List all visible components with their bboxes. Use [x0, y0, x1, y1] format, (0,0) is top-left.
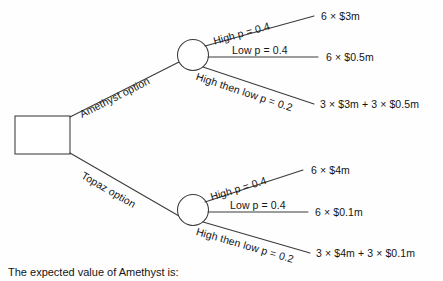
outcome-label-amethyst-low: 6 × $0.5m — [326, 52, 374, 63]
outcome-label-amethyst-high: 6 × $3m — [321, 11, 360, 22]
branch-line-topaz-option — [70, 153, 179, 216]
chance-node-amethyst — [178, 40, 209, 71]
outcome-label-amethyst-highthenlow: 3 × $3m + 3 × $0.5m — [320, 99, 419, 110]
decision-tree-figure: Amethyst option High p = 0.4 Low p = 0.4… — [0, 0, 443, 281]
figure-caption: The expected value of Amethyst is: — [8, 266, 179, 278]
outcome-label-topaz-low: 6 × $0.1m — [315, 207, 363, 218]
outcome-label-topaz-high: 6 × $4m — [311, 165, 350, 176]
chance-node-topaz — [178, 195, 209, 226]
decision-node-square — [15, 116, 70, 154]
outcome-label-topaz-highthenlow: 3 × $4m + 3 × $0.1m — [316, 248, 415, 259]
probability-label-topaz-low: Low p = 0.4 — [230, 200, 286, 211]
probability-label-amethyst-low: Low p = 0.4 — [232, 45, 288, 56]
